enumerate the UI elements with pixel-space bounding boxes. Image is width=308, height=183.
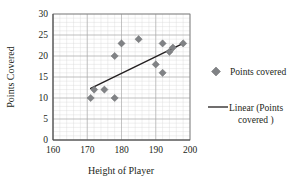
- y-tick-label: 15: [39, 72, 49, 82]
- x-axis-tick-labels: 160170180190200: [46, 145, 198, 155]
- x-tick-label: 180: [114, 145, 129, 155]
- x-tick-label: 170: [80, 145, 95, 155]
- scatter-chart: 051015202530 160170180190200 Height of P…: [0, 0, 308, 183]
- legend-label-linear-line1: Linear (Points: [229, 103, 283, 114]
- x-tick-label: 200: [183, 145, 198, 155]
- y-tick-label: 10: [39, 93, 49, 103]
- x-axis-title: Height of Player: [88, 165, 155, 176]
- legend-label-linear-line2: covered ): [238, 115, 274, 126]
- legend-diamond-marker: [212, 67, 221, 76]
- y-tick-label: 30: [39, 9, 49, 19]
- y-tick-label: 0: [43, 135, 48, 145]
- chart-canvas: 051015202530 160170180190200 Height of P…: [0, 0, 308, 183]
- chart-legend: Points covered Linear (Points covered ): [208, 67, 286, 126]
- x-tick-label: 190: [149, 145, 164, 155]
- legend-label-points-covered: Points covered: [230, 67, 286, 77]
- y-tick-label: 20: [39, 51, 49, 61]
- y-tick-label: 5: [43, 114, 48, 124]
- y-axis-title: Points Covered: [5, 46, 16, 107]
- y-axis-tick-labels: 051015202530: [39, 9, 49, 145]
- y-tick-label: 25: [39, 30, 49, 40]
- x-tick-label: 160: [46, 145, 61, 155]
